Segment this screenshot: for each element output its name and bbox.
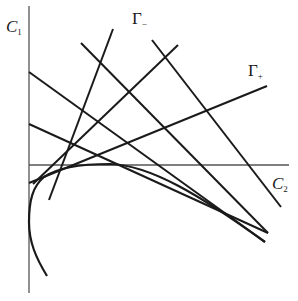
line-gamma-plus: [29, 86, 267, 183]
c1-label-subscript: 1: [17, 27, 22, 37]
line-steep-left: [49, 29, 113, 200]
envelope-curve: [29, 164, 265, 276]
gamma-plus-label: Γ+: [248, 62, 263, 81]
diagram-canvas: C1 C2 Γ− Γ+: [0, 0, 298, 301]
gamma-minus-label: Γ−: [132, 10, 147, 29]
c2-axis-label: C2: [272, 175, 288, 194]
gamma-minus-text: Γ: [132, 9, 142, 28]
c1-label-text: C: [6, 17, 17, 36]
gamma-minus-subscript: −: [142, 19, 147, 29]
line-gamma-minus-b: [81, 43, 268, 233]
gamma-plus-text: Γ: [248, 61, 258, 80]
c2-label-text: C: [272, 174, 283, 193]
gamma-plus-subscript: +: [258, 71, 263, 81]
line-tangent: [29, 124, 268, 233]
c2-label-subscript: 2: [283, 184, 288, 194]
diagram-svg: [0, 0, 298, 301]
c1-axis-label: C1: [6, 18, 22, 37]
